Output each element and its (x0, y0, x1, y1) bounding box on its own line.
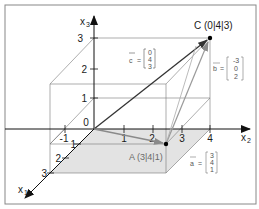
svg-text:=: = (220, 65, 224, 72)
x2-tick-2: 2 (149, 133, 155, 144)
svg-text:4: 4 (210, 159, 214, 166)
svg-text:1: 1 (24, 189, 28, 196)
svg-text:c: c (129, 57, 133, 64)
svg-text:0: 0 (148, 49, 152, 56)
point-C (208, 36, 212, 40)
point-A (164, 142, 168, 146)
x2-tick-3: 3 (179, 133, 185, 144)
svg-text:2: 2 (234, 73, 238, 80)
x1-tick-2: 2 (55, 153, 61, 164)
point-A-label: A (3|4|1) (129, 152, 163, 162)
svg-text:3: 3 (210, 152, 214, 159)
svg-text:-3: -3 (233, 57, 239, 64)
x3-tick-2: 2 (81, 64, 87, 75)
svg-text:3: 3 (148, 63, 152, 70)
origin-label: 0 (83, 117, 89, 128)
x2-tick-4: 4 (207, 133, 213, 144)
x1-tick-3: 3 (41, 168, 47, 179)
svg-text:x: x (241, 132, 246, 143)
svg-text:=: = (137, 57, 141, 64)
svg-text:0: 0 (234, 65, 238, 72)
svg-text:b: b (213, 65, 217, 72)
x1-tick-1: 1 (70, 139, 76, 150)
x3-tick-1: 1 (81, 93, 87, 104)
x3-tick-3: 3 (77, 33, 83, 44)
svg-text:a: a (190, 160, 194, 167)
svg-text:4: 4 (148, 56, 152, 63)
svg-text:x: x (18, 184, 23, 195)
point-C-label: C (0|4|3) (194, 20, 233, 31)
svg-text:3: 3 (86, 21, 90, 28)
svg-text:=: = (198, 160, 202, 167)
x2-tick-minus1: -1 (60, 133, 69, 144)
svg-text:2: 2 (247, 137, 251, 144)
svg-text:1: 1 (210, 166, 214, 173)
vector-diagram: 3 2 1 -1 1 2 3 4 1 2 3 0 x 3 x 2 x 1 C (… (0, 0, 259, 209)
svg-text:x: x (80, 16, 85, 27)
